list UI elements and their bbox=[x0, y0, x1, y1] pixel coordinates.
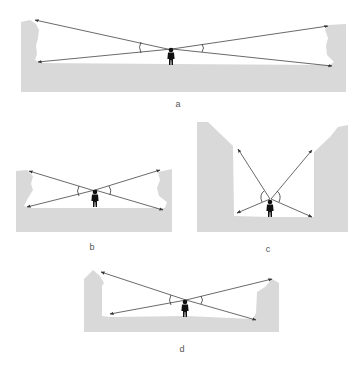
panel-b-person-icon bbox=[91, 190, 98, 207]
panel-d-person-icon bbox=[181, 300, 188, 317]
panel-b: b bbox=[16, 169, 172, 252]
panel-c-ray-lower-right bbox=[271, 199, 312, 217]
panel-c-person-icon bbox=[266, 200, 273, 217]
panel-c-angle-right bbox=[277, 191, 280, 202]
panel-d: d bbox=[84, 270, 279, 354]
panel-d-label: d bbox=[179, 344, 184, 354]
panel-c-ray-lower-left bbox=[237, 199, 270, 213]
panel-c: c bbox=[197, 122, 348, 254]
panel-c-ray-upper-right bbox=[271, 150, 312, 199]
panel-a-ray-lower-left bbox=[38, 49, 172, 62]
panel-a-ray-lower-right bbox=[172, 49, 332, 66]
panel-b-label: b bbox=[89, 242, 94, 252]
panel-a-angle-left bbox=[140, 42, 142, 53]
panel-b-ray-upper-left bbox=[29, 171, 95, 191]
panel-a-person-icon bbox=[167, 48, 174, 65]
panel-c-ground bbox=[197, 122, 348, 232]
panel-d-ray-lower-left bbox=[110, 300, 186, 314]
panel-d-angle-left bbox=[170, 295, 172, 305]
panel-c-angle-left bbox=[261, 191, 264, 202]
panel-b-ray-lower-right bbox=[95, 190, 163, 210]
panel-c-label: c bbox=[266, 244, 271, 254]
panel-b-angle-right bbox=[109, 186, 111, 195]
panel-c-ray-upper-left bbox=[238, 149, 270, 199]
panel-b-ray-upper-right bbox=[95, 170, 160, 190]
panel-d-angle-right bbox=[201, 296, 203, 304]
panel-a-ray-upper-left bbox=[35, 20, 172, 50]
panel-b-ray-lower-left bbox=[27, 190, 95, 207]
panel-a: a bbox=[21, 20, 346, 109]
panel-a-label: a bbox=[175, 99, 180, 109]
diagram-canvas: a b c d bbox=[0, 0, 359, 372]
panel-a-ray-upper-right bbox=[172, 26, 328, 49]
panel-a-angle-right bbox=[202, 44, 204, 52]
panel-d-ray-upper-left bbox=[101, 272, 186, 300]
